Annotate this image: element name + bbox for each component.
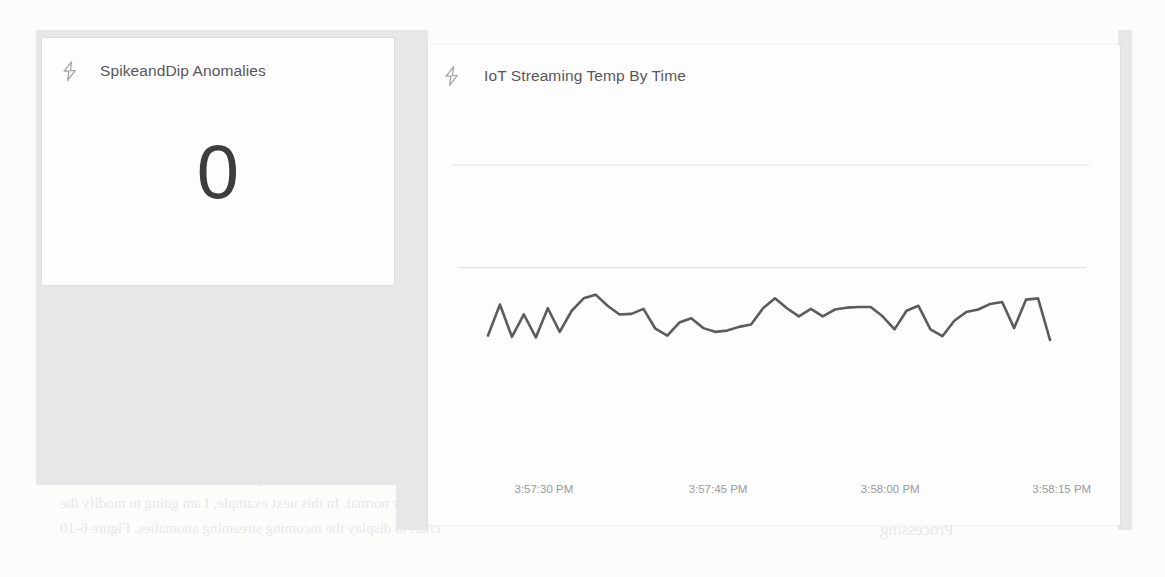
dashboard-canvas-right [1118, 30, 1132, 530]
chart-series-line [488, 295, 1050, 340]
chart-x-axis: 3:57:30 PM3:57:45 PM3:58:00 PM3:58:15 PM [440, 483, 1110, 499]
scanned-page: Figure 6-6. Demo Spike and Dip streaming… [0, 0, 1165, 577]
tile-iot-streaming-temp[interactable]: IoT Streaming Temp By Time 3:57:30 PM3:5… [428, 45, 1120, 525]
lightning-bolt-icon [442, 65, 462, 87]
lightning-bolt-icon [60, 60, 80, 82]
x-axis-tick-label: 3:57:45 PM [689, 483, 748, 495]
x-axis-tick-label: 3:58:15 PM [1032, 483, 1091, 495]
tile-title: IoT Streaming Temp By Time [484, 67, 686, 85]
chart-gridlines [452, 165, 1090, 268]
tile-header: SpikeandDip Anomalies [42, 38, 394, 82]
line-chart [440, 103, 1108, 521]
tile-spikeanddip-anomalies[interactable]: SpikeandDip Anomalies 0 [42, 38, 394, 285]
tile-header: IoT Streaming Temp By Time [428, 45, 1120, 87]
bleed-text: chart to display the incoming streaming … [60, 520, 440, 537]
line-chart-svg [440, 103, 1108, 521]
x-axis-tick-label: 3:58:00 PM [861, 483, 920, 495]
tile-title: SpikeandDip Anomalies [100, 62, 266, 80]
dashboard-canvas-gutter [396, 30, 428, 530]
x-axis-tick-label: 3:57:30 PM [514, 483, 573, 495]
kpi-value: 0 [42, 134, 394, 210]
